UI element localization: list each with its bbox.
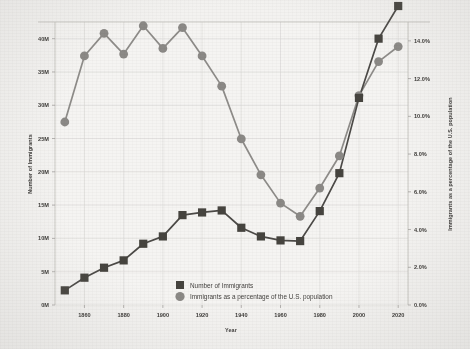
left-tick-label: 5M	[41, 269, 49, 275]
data-point-percentage	[335, 152, 344, 161]
right-axis-ticks: 0.0%2.0%4.0%6.0%8.0%10.0%12.0%14.0%	[408, 38, 430, 308]
right-tick-label: 0.0%	[414, 302, 427, 308]
x-tick-label: 1880	[117, 312, 129, 318]
plot-area-background	[55, 22, 408, 305]
data-point-number	[61, 286, 69, 294]
data-point-number	[355, 94, 363, 102]
data-point-number	[276, 236, 284, 244]
x-tick-label: 1860	[78, 312, 90, 318]
data-point-number	[159, 232, 167, 240]
data-point-percentage	[80, 52, 89, 61]
x-tick-label: 1960	[274, 312, 286, 318]
right-tick-label: 14.0%	[414, 38, 430, 44]
x-tick-label: 1980	[314, 312, 326, 318]
data-point-number	[335, 169, 343, 177]
data-point-number	[218, 206, 226, 214]
left-tick-label: 35M	[38, 69, 49, 75]
right-tick-label: 10.0%	[414, 113, 430, 119]
legend-square-icon	[176, 281, 184, 289]
left-tick-label: 40M	[38, 36, 49, 42]
data-point-number	[296, 237, 304, 245]
data-point-number	[139, 240, 147, 248]
data-point-percentage	[257, 170, 266, 179]
data-point-percentage	[60, 118, 69, 127]
left-tick-label: 0M	[41, 302, 49, 308]
data-point-percentage	[296, 212, 305, 221]
data-point-percentage	[217, 82, 226, 91]
right-tick-label: 12.0%	[414, 76, 430, 82]
data-point-number	[178, 211, 186, 219]
data-point-number	[316, 207, 324, 215]
data-point-percentage	[394, 42, 403, 51]
data-point-percentage	[374, 57, 383, 66]
left-tick-label: 25M	[38, 136, 49, 142]
data-point-percentage	[139, 21, 148, 30]
x-tick-label: 2020	[392, 312, 404, 318]
x-tick-label: 1920	[196, 312, 208, 318]
chart-canvas: 0M5M10M15M20M25M30M35M40M 0.0%2.0%4.0%6.…	[0, 0, 470, 349]
data-point-percentage	[100, 29, 109, 38]
left-tick-label: 30M	[38, 102, 49, 108]
right-tick-label: 6.0%	[414, 189, 427, 195]
data-point-number	[198, 208, 206, 216]
y-axis-right-title: Immigrants as a percentage of the U.S. p…	[447, 97, 453, 230]
data-point-number	[374, 35, 382, 43]
legend-circle-icon	[175, 292, 184, 301]
data-point-percentage	[198, 52, 207, 61]
legend-item-percentage-of-population[interactable]: Immigrants as a percentage of the U.S. p…	[175, 292, 332, 301]
data-point-number	[80, 274, 88, 282]
data-point-percentage	[158, 44, 167, 53]
right-tick-label: 2.0%	[414, 264, 427, 270]
x-axis-title: Year	[225, 327, 238, 333]
right-tick-label: 4.0%	[414, 227, 427, 233]
data-point-number	[394, 2, 402, 10]
right-tick-label: 8.0%	[414, 151, 427, 157]
x-axis-ticks: 186018801900192019401960198020002020	[78, 305, 404, 318]
data-point-number	[120, 256, 128, 264]
y-axis-left-title: Number of Immigrants	[27, 134, 33, 194]
x-tick-label: 1900	[157, 312, 169, 318]
data-point-percentage	[315, 184, 324, 193]
data-point-number	[257, 232, 265, 240]
left-tick-label: 20M	[38, 169, 49, 175]
data-point-number	[100, 264, 108, 272]
left-tick-label: 15M	[38, 202, 49, 208]
data-point-percentage	[119, 50, 128, 59]
immigration-chart: 0M5M10M15M20M25M30M35M40M 0.0%2.0%4.0%6.…	[0, 0, 470, 349]
left-axis-ticks: 0M5M10M15M20M25M30M35M40M	[38, 36, 55, 308]
left-tick-label: 10M	[38, 235, 49, 241]
legend-label-0: Number of Immigrants	[190, 282, 253, 290]
x-tick-label: 1940	[235, 312, 247, 318]
data-point-percentage	[178, 23, 187, 32]
data-point-number	[237, 224, 245, 232]
x-tick-label: 2000	[353, 312, 365, 318]
data-point-percentage	[237, 135, 246, 144]
data-point-percentage	[276, 199, 285, 208]
legend-label-1: Immigrants as a percentage of the U.S. p…	[190, 293, 333, 301]
